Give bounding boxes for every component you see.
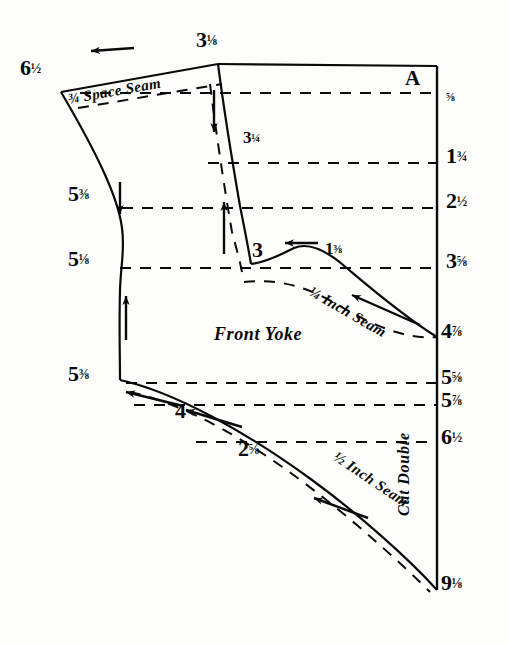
measurement-value: 3 <box>196 27 207 52</box>
corner-point-label-a: A <box>405 68 420 89</box>
measurement-left-lower: 5⅜ <box>68 363 89 385</box>
measurement-fraction: ½ <box>457 194 467 209</box>
measurement-bottom-4: 4 <box>175 400 186 422</box>
measurement-center-3: 3 <box>252 239 263 261</box>
measurement-fraction: ⅛ <box>207 33 217 48</box>
measurement-fraction: ⅝ <box>457 254 467 269</box>
measurement-right-558: 5⅝ <box>441 366 462 388</box>
measurement-fraction: ⅜ <box>79 187 89 202</box>
measurement-bottom-258: 2⅝ <box>238 438 259 460</box>
corner-label-text: A <box>405 66 420 90</box>
measurement-value: 5 <box>68 246 79 271</box>
measurement-value: 4 <box>175 398 186 423</box>
measurement-right-578: 5⅞ <box>441 389 462 411</box>
measurement-fraction: ⅛ <box>452 576 462 591</box>
measurement-value: 5 <box>68 361 79 386</box>
measurement-right-358: 3⅝ <box>446 250 467 272</box>
measurement-value: 2 <box>446 188 457 213</box>
measurement-top-center: 3⅛ <box>196 29 217 51</box>
measurement-right-612: 6½ <box>441 426 462 448</box>
measurement-value: 9 <box>441 570 452 595</box>
measurement-left-mid: 5⅛ <box>68 248 89 270</box>
measurement-right-058: ⅝ <box>446 88 455 105</box>
measurement-value: 5 <box>441 364 452 389</box>
measurement-fraction: ⅝ <box>249 442 259 457</box>
measurement-fraction: ⅝ <box>446 90 455 104</box>
measurement-right-212: 2½ <box>446 190 467 212</box>
measurement-fraction: ⅜ <box>333 242 342 256</box>
measurement-fraction: ⅛ <box>79 252 89 267</box>
measurement-center-325: 3¼ <box>243 129 260 146</box>
measurement-fraction: ¾ <box>457 149 467 164</box>
measurement-value: 2 <box>238 436 249 461</box>
measurement-left-upper: 5⅜ <box>68 183 89 205</box>
measurement-fraction: ½ <box>452 430 462 445</box>
arrow-top-right <box>91 48 134 51</box>
measurement-fraction: ⅞ <box>452 324 462 339</box>
measurement-value: 1 <box>446 143 457 168</box>
measurement-value: 3 <box>252 237 263 262</box>
measurement-right-918: 9⅛ <box>441 572 462 594</box>
piece-name-label: Front Yoke <box>214 325 302 343</box>
measurement-value: 6 <box>441 424 452 449</box>
measurement-value: 6 <box>20 55 31 80</box>
measurement-fraction: ½ <box>31 61 41 76</box>
measurement-fraction: ⅞ <box>452 393 462 408</box>
measurement-fraction: ⅜ <box>79 367 89 382</box>
measurement-fraction: ¼ <box>251 131 260 145</box>
measurement-value: 3 <box>446 248 457 273</box>
measurement-center-138: 1⅜ <box>325 240 342 257</box>
measurement-value: 5 <box>68 181 79 206</box>
measurement-right-478: 4⅞ <box>441 320 462 342</box>
piece-name-text: Front Yoke <box>214 324 302 344</box>
measurement-fraction: ⅝ <box>452 370 462 385</box>
measurement-value: 3 <box>243 128 251 147</box>
measurement-right-134: 1¾ <box>446 145 467 167</box>
measurement-value: 5 <box>441 387 452 412</box>
measurement-value: 1 <box>325 239 333 258</box>
cut-double-text: Cut Double <box>395 432 412 516</box>
pattern-sheet: 6½ 5⅜ 5⅛ 5⅜ 3⅛ 3¼ 3 1⅜ 4 2⅝ ⅝ 1¾ 2½ 3⅝ 4… <box>0 0 509 645</box>
measurement-left-top: 6½ <box>20 57 41 79</box>
left-curve-edge <box>61 92 123 380</box>
measurement-value: 4 <box>441 318 452 343</box>
cut-double-label: Cut Double <box>396 432 412 516</box>
